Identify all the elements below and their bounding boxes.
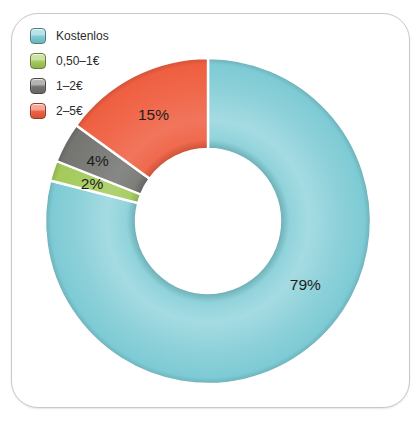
legend-item: 2–5€ <box>30 103 109 118</box>
chart-stage: 79%2%4%15% Kostenlos0,50–1€1–2€2–5€ <box>0 0 419 422</box>
legend-item: 1–2€ <box>30 78 109 93</box>
legend-item: 0,50–1€ <box>30 53 109 68</box>
legend-swatch <box>30 28 46 44</box>
legend-label: Kostenlos <box>56 29 109 43</box>
chart-legend: Kostenlos0,50–1€1–2€2–5€ <box>30 28 109 118</box>
legend-label: 0,50–1€ <box>56 54 99 68</box>
legend-label: 2–5€ <box>56 104 83 118</box>
legend-swatch <box>30 53 46 69</box>
legend-item: Kostenlos <box>30 28 109 43</box>
slice-value-label: 4% <box>86 152 109 169</box>
slice-value-label: 15% <box>138 106 169 123</box>
slice-value-label: 2% <box>81 175 104 192</box>
legend-swatch <box>30 103 46 119</box>
legend-label: 1–2€ <box>56 79 83 93</box>
slice-value-label: 79% <box>290 276 321 293</box>
legend-swatch <box>30 78 46 94</box>
